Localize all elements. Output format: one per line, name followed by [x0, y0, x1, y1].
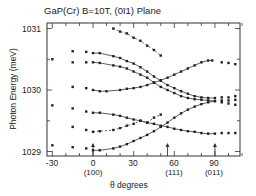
data-point: [126, 32, 128, 34]
data-point: [193, 131, 195, 133]
data-point: [187, 92, 189, 94]
data-point: [99, 52, 101, 54]
data-point: [173, 128, 175, 130]
data-point: [207, 97, 209, 99]
data-point: [214, 97, 216, 99]
data-point: [99, 149, 101, 151]
data-point: [139, 40, 141, 42]
data-point: [214, 132, 216, 134]
data-point: [92, 149, 94, 151]
data-point: [92, 89, 94, 91]
x-sublabel-011: (011): [199, 168, 229, 177]
data-point: [227, 62, 229, 64]
data-point: [139, 86, 141, 88]
data-point: [214, 100, 216, 102]
data-point: [92, 131, 94, 133]
data-point: [234, 132, 236, 134]
chart-title: GaP(Cr) B=10T, (0ī1) Plane: [44, 5, 161, 16]
data-point: [146, 70, 148, 72]
data-point: [193, 95, 195, 97]
data-point: [119, 127, 121, 129]
data-point: [160, 86, 162, 88]
data-point: [71, 146, 73, 148]
data-point: [146, 77, 148, 79]
data-point: [207, 59, 209, 61]
data-point: [193, 98, 195, 100]
data-point: [146, 121, 148, 123]
data-point: [99, 62, 101, 64]
data-point: [146, 134, 148, 136]
data-point: [85, 61, 87, 63]
data-point: [166, 77, 168, 79]
data-point: [173, 87, 175, 89]
data-point: [193, 64, 195, 66]
data-point: [180, 129, 182, 131]
data-point: [234, 95, 236, 97]
data-point: [153, 130, 155, 132]
data-point: [132, 140, 134, 142]
data-point: [119, 145, 121, 147]
fit-curve-branch-7: [93, 101, 215, 150]
data-point: [119, 57, 121, 59]
data-point: [173, 116, 175, 118]
data-point: [71, 107, 73, 109]
data-point: [180, 112, 182, 114]
data-point: [146, 84, 148, 86]
data-point: [112, 55, 114, 57]
data-point: [166, 121, 168, 123]
data-point: [221, 101, 223, 103]
data-point: [153, 49, 155, 51]
data-point: [132, 70, 134, 72]
data-point: [112, 113, 114, 115]
x-sublabel-100: (100): [78, 168, 108, 177]
data-point: [132, 123, 134, 125]
data-point: [71, 61, 73, 63]
data-point: [160, 54, 162, 56]
data-point: [207, 101, 209, 103]
data-point: [132, 62, 134, 64]
data-point: [153, 75, 155, 77]
data-point: [112, 129, 114, 131]
data-point: [227, 132, 229, 134]
x-tick-minus30: -30: [40, 158, 64, 168]
data-point: [180, 70, 182, 72]
data-point: [180, 90, 182, 92]
data-point: [221, 96, 223, 98]
data-point: [132, 37, 134, 39]
data-point: [227, 102, 229, 104]
data-point: [126, 67, 128, 69]
data-point: [112, 27, 114, 29]
data-point: [99, 130, 101, 132]
data-point: [126, 124, 128, 126]
data-point: [132, 118, 134, 120]
data-point: [160, 113, 162, 115]
x-tick-60: 60: [162, 158, 186, 168]
data-point: [92, 52, 94, 54]
data-point: [234, 104, 236, 106]
y-tick-1030: 1030: [17, 85, 41, 95]
data-point: [85, 147, 87, 149]
data-point: [139, 73, 141, 75]
x-axis-label: θ degrees: [110, 180, 148, 190]
data-point: [132, 87, 134, 89]
data-point: [119, 89, 121, 91]
data-point: [221, 132, 223, 134]
data-point: [119, 30, 121, 32]
data-point: [51, 104, 53, 106]
data-point: [71, 86, 73, 88]
x-sublabel-111: (111): [159, 168, 189, 177]
data-point: [200, 132, 202, 134]
data-point: [173, 73, 175, 75]
data-point: [126, 116, 128, 118]
data-point: [146, 45, 148, 47]
data-point: [200, 103, 202, 105]
data-point: [139, 120, 141, 122]
data-point: [200, 96, 202, 98]
data-point: [139, 66, 141, 68]
data-point: [166, 126, 168, 128]
data-point: [227, 99, 229, 101]
data-point: [126, 143, 128, 145]
data-point: [99, 90, 101, 92]
data-point: [119, 65, 121, 67]
data-point: [200, 99, 202, 101]
